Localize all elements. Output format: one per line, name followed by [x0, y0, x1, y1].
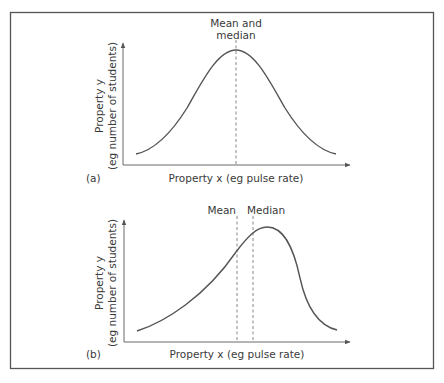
mean-label-b: Mean [207, 204, 236, 216]
y-axis-label-b-line2: (eg number of students) [106, 219, 118, 347]
panel-b: Mean Median Property y (eg number of stu… [86, 204, 350, 360]
panel-label-a: (a) [86, 172, 101, 184]
panel-a: Mean and median Property y (eg number of… [86, 17, 350, 184]
distribution-diagram: Mean and median Property y (eg number of… [0, 0, 444, 383]
mean-and-label: Mean and [210, 17, 262, 29]
y-axis-label-a-line1: Property y [93, 79, 105, 133]
x-axis-label-a: Property x (eg pulse rate) [169, 172, 304, 184]
y-axis-label-a-line2: (eg number of students) [106, 42, 118, 170]
x-axis-label-b: Property x (eg pulse rate) [170, 348, 305, 360]
panel-label-b: (b) [86, 348, 101, 360]
figure-frame [11, 13, 434, 369]
y-axis-label-b-line1: Property y [93, 256, 105, 310]
median-label-a: median [216, 29, 255, 41]
median-label-b: Median [247, 204, 285, 216]
